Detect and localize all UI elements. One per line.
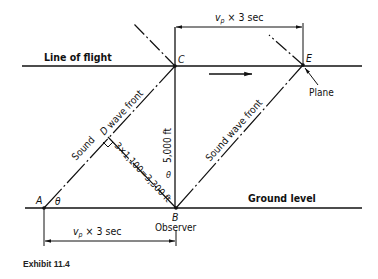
top-dimension-label: vp × 3 sec xyxy=(215,11,263,25)
ground-level-label: Ground level xyxy=(248,192,316,204)
point-a-dot xyxy=(42,206,46,210)
bottom-dimension-label: vp × 3 sec xyxy=(73,225,121,239)
point-a-label: A xyxy=(35,194,42,206)
right-wave-front-label: Sound wave front xyxy=(203,97,264,164)
right-wave-front-line xyxy=(176,65,303,208)
plane-label: Plane xyxy=(309,87,334,98)
plane-pointer-arrow xyxy=(305,68,318,85)
point-b-dot xyxy=(174,206,178,210)
point-e-dot xyxy=(301,63,305,67)
point-c-label: C xyxy=(178,53,185,65)
point-e-label: E xyxy=(306,52,312,64)
observer-label: Observer xyxy=(155,222,197,233)
exhibit-caption: Exhibit 11.4 xyxy=(23,259,70,269)
line-of-flight-label: Line of flight xyxy=(44,51,112,63)
left-wave-front-extension xyxy=(134,24,175,66)
left-wave-front-label-front: wave front xyxy=(104,87,145,130)
sonic-boom-diagram: Line of flight Ground level C E A B D Pl… xyxy=(0,0,378,279)
point-c-dot xyxy=(173,64,177,68)
angle-theta-a: θ xyxy=(55,196,61,207)
right-wave-front-extension xyxy=(269,35,303,65)
left-wave-front-label-sound: Sound xyxy=(69,134,96,162)
altitude-label: 5,000 ft xyxy=(162,127,173,163)
angle-theta-b: θ xyxy=(166,170,171,180)
